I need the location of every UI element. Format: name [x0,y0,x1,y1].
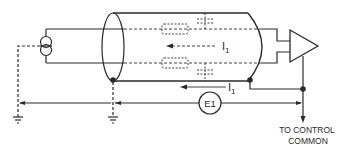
amplifier-icon [290,30,318,62]
arrowhead-inner-icon [166,44,173,49]
arrowhead-shield-icon [180,85,187,90]
label-to-control: TO CONTROL [279,125,335,135]
arrowhead-gnd-mid-icon [115,101,121,105]
arrowhead-gnd-right-icon [296,101,302,105]
source-ground-dashed [18,46,40,117]
stray-capacitor-bottom-icon [197,63,213,81]
amp-lead-bottom [261,52,290,63]
shield-drain-wire [250,80,303,89]
arrowhead-gnd-left-icon [19,101,25,105]
label-current-shield: I1 [228,81,236,96]
shield-node-left [111,78,115,82]
cable-end-ellipse [102,13,124,81]
arrow-to-common-icon [301,116,306,123]
label-e1: E1 [204,98,216,109]
shielded-cable-diagram: I1 I1 E1 TO CONTROL COMMON [0,0,344,154]
label-common: COMMON [288,136,328,146]
control-common-node [301,87,305,91]
amp-lead-top [261,29,290,41]
current-source-icon [40,37,52,56]
stray-capacitor-top-icon [197,13,213,29]
ground-left-icon [13,117,23,123]
label-current-inner: I1 [222,40,230,55]
shielded-cable [102,13,262,81]
ground-shield-icon [108,117,118,123]
